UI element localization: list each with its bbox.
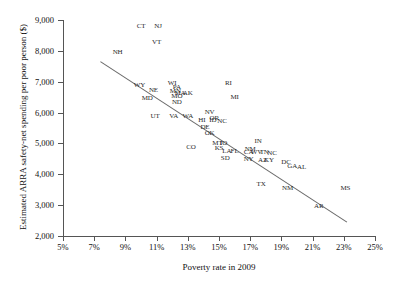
state-point-label: NM	[282, 184, 293, 191]
x-tick-label: 21%	[298, 243, 328, 252]
state-point-label: GA	[287, 162, 297, 169]
x-tick-mark	[344, 236, 345, 241]
y-tick-mark	[58, 82, 63, 83]
state-point-label: KY	[264, 157, 274, 164]
state-point-label: MS	[340, 184, 350, 191]
state-point-label: SD	[221, 154, 230, 161]
state-point-label: OK	[205, 130, 215, 137]
state-point-label: ID	[209, 116, 216, 123]
x-tick-label: 9%	[110, 243, 140, 252]
state-point-label: RI	[225, 79, 232, 86]
y-tick-label: 8,000	[14, 47, 54, 56]
state-point-label: FL	[231, 148, 239, 155]
state-point-label: MI	[230, 94, 238, 101]
x-tick-label: 25%	[360, 243, 390, 252]
x-tick-label: 11%	[142, 243, 172, 252]
y-tick-mark	[58, 205, 63, 206]
state-point-label: WY	[134, 82, 145, 89]
state-point-label: VT	[152, 38, 161, 45]
x-tick-mark	[313, 236, 314, 241]
y-tick-mark	[58, 143, 63, 144]
x-tick-mark	[157, 236, 158, 241]
y-tick-label: 9,000	[14, 16, 54, 25]
x-tick-mark	[219, 236, 220, 241]
x-tick-label: 7%	[79, 243, 109, 252]
x-tick-label: 5%	[48, 243, 78, 252]
x-tick-label: 23%	[329, 243, 359, 252]
x-tick-mark	[94, 236, 95, 241]
y-tick-label: 5,000	[14, 139, 54, 148]
state-point-label: AK	[183, 89, 193, 96]
x-tick-label: 15%	[204, 243, 234, 252]
x-axis-title: Poverty rate in 2009	[63, 262, 375, 272]
x-tick-mark	[281, 236, 282, 241]
state-point-label: WA	[182, 113, 193, 120]
y-tick-mark	[58, 51, 63, 52]
x-tick-label: 13%	[173, 243, 203, 252]
x-tick-mark	[375, 236, 376, 241]
state-point-label: AL	[297, 164, 306, 171]
state-point-label: NC	[217, 117, 227, 124]
state-point-label: NH	[113, 49, 123, 56]
scatter-chart: Estimated ARRA safety-net spending per p…	[0, 0, 395, 287]
y-axis-title-wrapper: Estimated ARRA safety-net spending per p…	[4, 0, 18, 260]
state-point-label: CT	[137, 23, 146, 30]
x-tick-label: 19%	[266, 243, 296, 252]
x-tick-mark	[63, 236, 64, 241]
state-point-label: ND	[172, 99, 182, 106]
y-tick-label: 2,000	[14, 232, 54, 241]
y-tick-label: 6,000	[14, 109, 54, 118]
y-axis-line	[63, 20, 64, 236]
y-tick-label: 4,000	[14, 170, 54, 179]
y-tick-label: 7,000	[14, 78, 54, 87]
state-point-label: TX	[257, 180, 266, 187]
state-point-label: CO	[186, 143, 196, 150]
x-tick-mark	[125, 236, 126, 241]
state-point-label: NJ	[154, 23, 162, 30]
state-point-label: MD	[142, 94, 153, 101]
x-tick-mark	[188, 236, 189, 241]
state-point-label: AR	[314, 203, 324, 210]
y-tick-mark	[58, 20, 63, 21]
y-tick-mark	[58, 113, 63, 114]
state-point-label: UT	[150, 113, 159, 120]
y-tick-label: 3,000	[14, 201, 54, 210]
y-tick-mark	[58, 174, 63, 175]
x-tick-label: 17%	[235, 243, 265, 252]
state-point-label: NY	[244, 156, 254, 163]
x-tick-mark	[250, 236, 251, 241]
state-point-label: VA	[169, 112, 178, 119]
